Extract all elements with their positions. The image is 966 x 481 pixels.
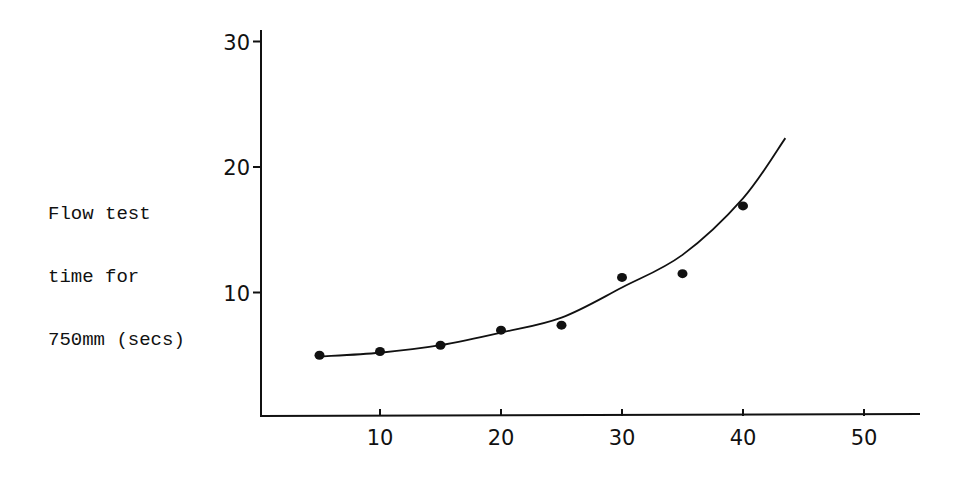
data-point (496, 326, 506, 335)
data-point (617, 273, 627, 282)
data-points (315, 201, 749, 359)
data-point (557, 321, 567, 330)
data-point (738, 201, 748, 210)
data-point (375, 347, 385, 356)
data-point (678, 269, 688, 278)
chart-plot: 1020301020304050 (0, 0, 966, 481)
fitted-curve (320, 138, 786, 356)
y-tick-label: 20 (223, 156, 250, 180)
y-tick-label: 30 (223, 31, 250, 55)
axes: 1020301020304050 (223, 30, 920, 450)
fitted-curve-line (320, 138, 786, 356)
x-axis-line (260, 414, 920, 416)
x-tick-label: 20 (488, 426, 515, 450)
x-tick-label: 10 (367, 426, 394, 450)
y-tick-label: 10 (223, 282, 250, 306)
x-tick-label: 50 (851, 426, 878, 450)
x-tick-label: 30 (609, 426, 636, 450)
data-point (436, 341, 446, 350)
data-point (315, 351, 325, 360)
x-tick-label: 40 (730, 426, 757, 450)
